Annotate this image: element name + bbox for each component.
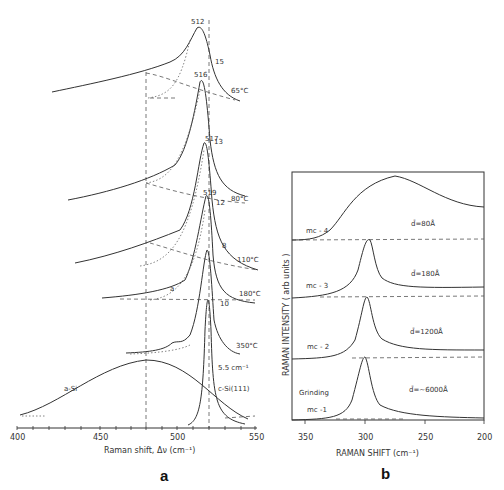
curve-a-Si bbox=[20, 360, 248, 419]
a-marker: a bbox=[170, 285, 174, 293]
temp-80C: 80°C bbox=[231, 195, 248, 203]
x-axis-label-b: RAMAN SHIFT (cm⁻¹) bbox=[336, 449, 419, 458]
tick-250: 250 bbox=[418, 433, 433, 442]
size-mc-4: d̄=80Å bbox=[411, 219, 435, 228]
tick-550: 550 bbox=[249, 433, 264, 442]
size-mc-2: d̄=1200Å bbox=[410, 327, 443, 336]
size-mc-3: d̄=180Å bbox=[411, 269, 440, 278]
temp-110C: 110°C bbox=[237, 256, 259, 264]
peak-516: 516 bbox=[194, 71, 208, 79]
width-15: 15 bbox=[215, 58, 224, 66]
tick-500: 500 bbox=[170, 433, 185, 442]
tick-300: 300 bbox=[358, 433, 373, 442]
curve-180C bbox=[102, 196, 255, 303]
size-mc-1: d̄=~6000Å bbox=[409, 385, 448, 394]
label-grinding: Grinding bbox=[299, 389, 329, 397]
tick-450: 450 bbox=[93, 433, 108, 442]
c-si-label: c-Si(111) bbox=[218, 385, 250, 393]
panel-letter-a: a bbox=[160, 467, 169, 484]
x-ticks-b bbox=[305, 420, 484, 424]
temp-65C: 65°C bbox=[231, 87, 248, 95]
width-5-5: 5.5 cm⁻¹ bbox=[218, 364, 249, 372]
width-8: 8 bbox=[222, 242, 226, 250]
label-mc-3: mc - 3 bbox=[306, 282, 328, 290]
label-mc-2: mc - 2 bbox=[307, 343, 329, 351]
label-mc-4: mc - 4 bbox=[306, 227, 329, 235]
figure: 400 450 500 550 Raman shift, Δν (cm⁻¹) 5… bbox=[0, 0, 504, 490]
width-12: 12 bbox=[216, 199, 225, 207]
x-axis-label-a: Raman shift, Δν (cm⁻¹) bbox=[104, 446, 195, 455]
panel-b: 350 300 250 200 RAMAN SHIFT (cm⁻¹) RAMAN… bbox=[282, 172, 492, 482]
width-10: 10 bbox=[220, 300, 229, 308]
peak-512: 512 bbox=[191, 18, 204, 26]
y-axis-label-b: RAMAN INTENSITY ( arb units ) bbox=[282, 254, 291, 376]
temp-180C: 180°C bbox=[239, 290, 261, 298]
curve-c-Si bbox=[188, 300, 245, 425]
tick-400: 400 bbox=[10, 433, 25, 442]
a-si-label: a-Si bbox=[64, 385, 77, 393]
width-13: 13 bbox=[214, 138, 223, 146]
curve-110C bbox=[75, 143, 258, 270]
panel-letter-b: b bbox=[381, 465, 390, 482]
temp-350C: 350°C bbox=[236, 342, 258, 350]
tick-350: 350 bbox=[298, 433, 313, 442]
peak-519: 519 bbox=[203, 189, 216, 197]
label-mc-1: mc -1 bbox=[307, 406, 327, 414]
panel-a: 400 450 500 550 Raman shift, Δν (cm⁻¹) 5… bbox=[10, 18, 264, 484]
tick-200: 200 bbox=[477, 433, 492, 442]
